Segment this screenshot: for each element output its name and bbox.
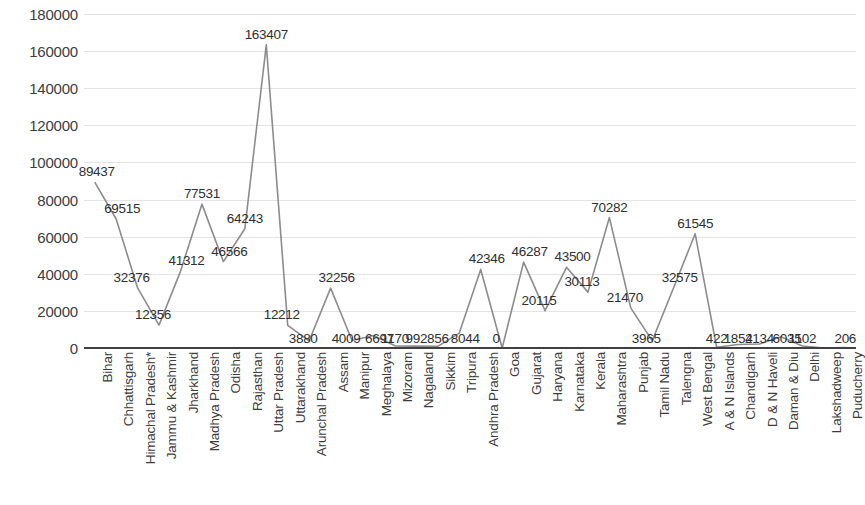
x-axis-tick-label: Daman & Diu <box>786 352 801 432</box>
y-axis-tick-label: 120000 <box>29 117 78 134</box>
x-axis-tick-label: Delhi <box>807 352 822 384</box>
data-point-label: 61545 <box>677 216 713 231</box>
x-axis-tick-label-text: Mizoram <box>400 352 415 404</box>
x-axis-tick-label-text: Meghalaya <box>379 352 394 418</box>
data-point-label: 12212 <box>264 307 300 322</box>
data-point-label: 3880 <box>289 331 318 346</box>
x-axis-tick-label: Chandigarh <box>743 352 758 422</box>
x-axis-tick-label: Karnataka <box>572 352 587 414</box>
x-axis-tick-label: Andhra Pradesh <box>486 352 501 449</box>
data-point-label: 992 <box>406 331 428 346</box>
data-point-label: 2134 <box>745 331 774 346</box>
data-point-label: 163407 <box>245 27 288 42</box>
x-axis-tick-label-text: Daman & Diu <box>786 352 801 432</box>
x-axis-tick-label: Odisha <box>228 352 243 396</box>
x-axis-tick-label-text: Kerala <box>593 352 608 392</box>
x-axis-tick-label-text: Punjab <box>636 352 651 395</box>
x-axis-tick-label-text: Odisha <box>228 352 243 396</box>
data-point-label: 42346 <box>469 251 505 266</box>
x-axis-tick-label: Nagaland <box>421 352 436 410</box>
data-point-label: 12356 <box>135 307 171 322</box>
y-axis-tick-label: 140000 <box>29 80 78 97</box>
x-axis-tick-label-text: Arunchal Pradesh <box>314 352 329 458</box>
data-point-label: 1102 <box>788 331 816 346</box>
x-axis-tick-label: A & N Islands <box>722 352 737 432</box>
x-axis-tick-label-text: Rajasthan <box>250 352 265 413</box>
x-axis-tick-label-text: Madhya Pradesh <box>207 352 222 453</box>
x-axis-tick-label-text: Gujarat <box>529 352 544 397</box>
data-point-label: 46287 <box>512 244 548 259</box>
x-axis-tick-label-text: Bihar <box>100 352 115 385</box>
x-axis-tick-label: Uttar Pradesh <box>271 352 286 435</box>
x-axis-tick-label-text: Goa <box>507 352 522 379</box>
x-axis-tick-label-text: Chandigarh <box>743 352 758 422</box>
x-axis-tick-label: Goa <box>507 352 522 379</box>
x-axis-tick-label: Puducherry <box>850 352 865 421</box>
x-axis-tick-label-text: Assam <box>336 352 351 394</box>
data-point-label: 89437 <box>79 164 115 179</box>
x-axis-tick-label-text: Tamil Nadu <box>657 352 672 420</box>
x-axis-tick-label: Maharashtra <box>614 352 629 428</box>
x-axis-line <box>84 347 856 349</box>
x-axis-tick-label-text: Talengna <box>679 352 694 407</box>
data-point-label: 8044 <box>451 331 480 346</box>
y-axis-tick-label: 100000 <box>29 154 78 171</box>
x-axis-tick-label: Himachal Pradesh* <box>143 352 158 466</box>
data-point-label: 0 <box>493 331 500 346</box>
x-axis-tick-label-text: Uttarakhand <box>293 352 308 425</box>
data-point-label: 30113 <box>564 274 599 289</box>
x-axis-tick-label-text: Manipur <box>357 352 372 401</box>
data-point-label: 32256 <box>319 270 355 285</box>
x-axis-tick-label-text: Chhattisgarh <box>121 352 136 428</box>
x-axis-tick-label: Jharkhand <box>186 352 201 415</box>
x-axis-tick-label: Madhya Pradesh <box>207 352 222 453</box>
x-axis-tick-label: Mizoram <box>400 352 415 404</box>
y-axis-tick-label: 60000 <box>37 228 78 245</box>
x-axis-tick-label-text: Nagaland <box>421 352 436 410</box>
x-axis-tick-label: Haryana <box>550 352 565 404</box>
x-axis-tick-label-text: D & N Haveli <box>765 352 780 429</box>
x-axis-tick-label: Bihar <box>100 352 115 385</box>
x-axis-tick-label-text: Uttar Pradesh <box>271 352 286 435</box>
data-point-label: 206 <box>834 331 856 346</box>
data-point-label: 32376 <box>114 270 150 285</box>
data-point-label: 69515 <box>104 201 140 216</box>
data-point-label: 856 <box>427 331 449 346</box>
data-point-label: 43500 <box>554 249 590 264</box>
x-axis-tick-label: Talengna <box>679 352 694 407</box>
x-axis-tick-label: Tripura <box>464 352 479 395</box>
data-point-label: 3965 <box>632 331 661 346</box>
x-axis: BiharChhattisgarhHimachal Pradesh*Jammu … <box>84 352 856 505</box>
y-axis-tick-label: 0 <box>70 340 78 357</box>
x-axis-tick-label: Lakshadweep <box>829 352 844 435</box>
x-axis-tick-label-text: Puducherry <box>850 352 865 421</box>
data-point-label: 64243 <box>227 211 263 226</box>
data-point-label: 46566 <box>211 244 247 259</box>
x-axis-tick-label: Gujarat <box>529 352 544 397</box>
x-axis-tick-label-text: Maharashtra <box>614 352 629 428</box>
x-axis-tick-label: Rajasthan <box>250 352 265 413</box>
x-axis-tick-label-text: Himachal Pradesh* <box>143 352 158 466</box>
x-axis-tick-label-text: A & N Islands <box>722 352 737 432</box>
x-axis-tick-label: Punjab <box>636 352 651 395</box>
data-point-label: 20115 <box>522 293 557 308</box>
x-axis-tick-label: Manipur <box>357 352 372 401</box>
x-axis-tick-label-text: West Bengal <box>700 352 715 428</box>
x-axis-tick-label: Sikkim <box>443 352 458 393</box>
x-axis-tick-label-text: Delhi <box>807 352 822 384</box>
y-axis: 0200004000060000800001000001200001400001… <box>0 0 78 360</box>
data-point-label: 32575 <box>662 270 698 285</box>
data-point-label: 77531 <box>184 186 220 201</box>
y-axis-tick-label: 80000 <box>37 191 78 208</box>
x-axis-tick-label: Tamil Nadu <box>657 352 672 420</box>
y-axis-tick-label: 40000 <box>37 265 78 282</box>
x-axis-tick-label: Jammu & Kashmir <box>164 352 179 461</box>
x-axis-tick-label: West Bengal <box>700 352 715 428</box>
x-axis-tick-label-text: Lakshadweep <box>829 352 844 435</box>
x-axis-tick-label-text: Tripura <box>464 352 479 395</box>
data-point-label: 21470 <box>607 290 643 305</box>
x-axis-tick-label-text: Jammu & Kashmir <box>164 352 179 461</box>
x-axis-tick-label-text: Karnataka <box>572 352 587 414</box>
x-axis-tick-label: Uttarakhand <box>293 352 308 425</box>
